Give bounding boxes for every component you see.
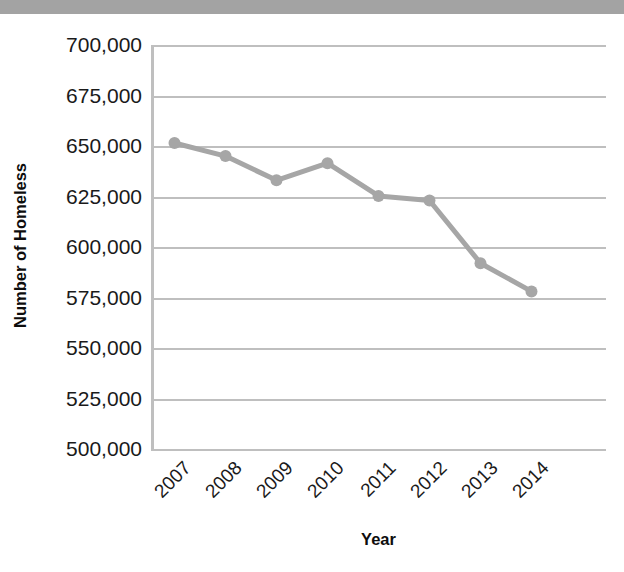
y-axis-tick-label: 650,000: [32, 135, 142, 156]
data-point-marker: [373, 190, 385, 202]
x-axis-tick-label: 2007: [147, 457, 196, 506]
y-axis-tick-label: 700,000: [32, 34, 142, 55]
x-axis-tick-label: 2013: [453, 457, 502, 506]
data-point-marker: [475, 257, 487, 269]
y-axis-title: Number of Homeless: [11, 146, 30, 346]
x-axis-tick-label: 2012: [402, 457, 451, 506]
x-axis-tick-labels: 20072008200920102011201220132014: [151, 451, 621, 521]
x-axis-tick-label: 2009: [249, 457, 298, 506]
x-axis-title: Year: [151, 530, 606, 549]
series-markers: [169, 137, 538, 297]
data-point-marker: [526, 285, 538, 297]
data-point-marker: [271, 174, 283, 186]
line-chart: Number of Homeless 700,000675,000650,000…: [0, 14, 624, 572]
y-axis-tick-label: 675,000: [32, 85, 142, 106]
y-axis-tick-label: 625,000: [32, 186, 142, 207]
top-banner-bar: [0, 0, 624, 14]
data-point-marker: [322, 157, 334, 169]
data-series-svg: [151, 45, 606, 449]
x-axis-tick-label: 2014: [504, 457, 553, 506]
y-axis-tick-label: 600,000: [32, 236, 142, 257]
y-axis-tick-label: 500,000: [32, 438, 142, 459]
data-point-marker: [220, 150, 232, 162]
y-axis-tick-labels: 700,000675,000650,000625,000600,000575,0…: [32, 14, 142, 474]
x-axis-tick-label: 2010: [300, 457, 349, 506]
data-point-marker: [169, 137, 181, 149]
y-axis-tick-label: 575,000: [32, 287, 142, 308]
y-axis-tick-label: 550,000: [32, 337, 142, 358]
y-axis-tick-label: 525,000: [32, 388, 142, 409]
x-axis-tick-label: 2008: [198, 457, 247, 506]
series-line: [175, 143, 532, 291]
x-axis-tick-label: 2011: [351, 457, 400, 506]
plot-area: [151, 45, 606, 449]
data-point-marker: [424, 195, 436, 207]
